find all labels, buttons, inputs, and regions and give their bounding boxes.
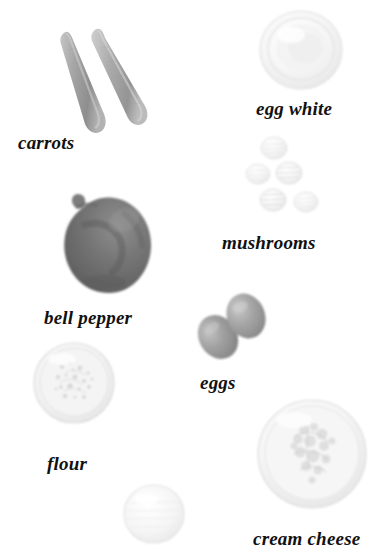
label-eggs: eggs (200, 373, 236, 392)
mushroom-slice (294, 192, 318, 212)
label-carrots: carrots (18, 133, 74, 152)
label-egg-white: egg white (256, 99, 332, 118)
ingredient-collage: carrots egg white mushrooms bell pepper … (0, 0, 392, 557)
egg-white-image (256, 8, 346, 94)
unlabelled-bowl-image (120, 481, 190, 549)
label-cream-cheese: cream cheese (253, 529, 360, 548)
label-bell-pepper: bell pepper (44, 308, 132, 327)
mushrooms-image (244, 136, 336, 220)
eggs-image (194, 292, 272, 366)
carrots-image (44, 22, 174, 140)
mushroom-slice (260, 189, 286, 211)
mushroom-slice (246, 164, 270, 184)
mushroom-slice (276, 162, 302, 184)
flour-image (30, 339, 120, 429)
mushroom-slice (261, 137, 287, 159)
label-mushrooms: mushrooms (222, 233, 316, 252)
bell-pepper-image (52, 186, 170, 304)
label-flour: flour (47, 454, 87, 473)
cream-cheese-image (254, 396, 374, 516)
